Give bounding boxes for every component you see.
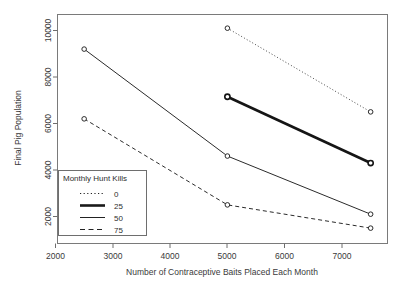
data-point (82, 47, 87, 52)
series-line (227, 97, 370, 163)
data-point (225, 26, 230, 31)
x-axis-ticks (56, 244, 343, 249)
legend-label: 75 (114, 226, 123, 235)
series-25 (225, 94, 373, 165)
y-axis-ticks (53, 31, 58, 217)
data-point (225, 94, 230, 99)
data-point (368, 160, 373, 165)
x-tick-label: 3000 (104, 251, 123, 261)
data-point (82, 117, 87, 122)
data-point (225, 203, 230, 208)
data-point (368, 212, 373, 217)
legend-title: Monthly Hunt Kills (63, 174, 127, 183)
chart-figure: 10000 8000 6000 4000 2000 Final Pig Popu… (0, 0, 400, 291)
x-axis-title: Number of Contraceptive Baits Placed Eac… (126, 267, 318, 277)
x-tick-label: 5000 (218, 251, 237, 261)
y-axis-tick-labels: 10000 8000 6000 4000 2000 (43, 18, 53, 226)
x-tick-label: 7000 (333, 251, 352, 261)
data-point (368, 110, 373, 115)
y-tick-label: 2000 (43, 207, 53, 226)
y-tick-label: 8000 (43, 67, 53, 86)
x-tick-label: 2000 (46, 251, 65, 261)
series-line (227, 28, 370, 112)
x-axis-tick-labels: 2000 3000 4000 5000 6000 7000 (46, 251, 352, 261)
series-0 (225, 26, 373, 114)
y-axis-title: Final Pig Population (13, 90, 23, 166)
legend-label: 50 (114, 214, 123, 223)
data-point (225, 154, 230, 159)
legend-label: 25 (114, 202, 123, 211)
data-point (368, 226, 373, 231)
legend-label: 0 (114, 190, 119, 199)
y-tick-label: 6000 (43, 114, 53, 133)
y-tick-label: 4000 (43, 160, 53, 179)
x-tick-label: 6000 (275, 251, 294, 261)
line-chart: 10000 8000 6000 4000 2000 Final Pig Popu… (0, 0, 400, 291)
y-tick-label: 10000 (43, 18, 53, 42)
legend: Monthly Hunt Kills 0 25 50 75 (59, 171, 147, 236)
x-tick-label: 4000 (161, 251, 180, 261)
